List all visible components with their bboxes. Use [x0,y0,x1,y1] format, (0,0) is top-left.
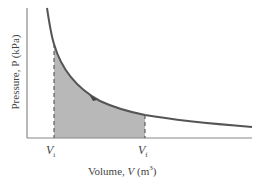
x-axis-label: Volume, V (m3) [88,164,156,177]
vi-marker-label: Vi [46,143,55,159]
pv-diagram-plot [0,0,265,186]
work-area-shading [54,44,145,138]
vf-marker-label: Vf [138,143,148,159]
y-axis-label: Pressure, P (kPa) [9,17,21,127]
